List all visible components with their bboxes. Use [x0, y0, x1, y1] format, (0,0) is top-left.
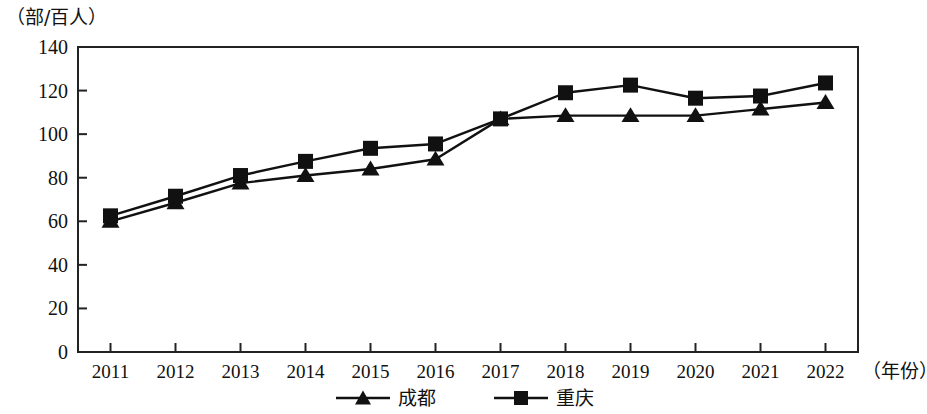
- legend-item-chengdu: 成都: [334, 388, 436, 408]
- y-axis-tick-label: 140: [12, 37, 68, 57]
- x-axis-tick-label: 2013: [206, 362, 276, 381]
- x-axis-tick-label: 2018: [531, 362, 601, 381]
- x-axis-tick-label: 2019: [596, 362, 666, 381]
- x-axis-tick-label: 2012: [141, 362, 211, 381]
- data-point-marker-square: [363, 141, 378, 156]
- data-point-marker-square: [298, 154, 313, 169]
- y-axis-tick-label: 60: [12, 211, 68, 231]
- data-point-marker-triangle: [817, 94, 835, 109]
- legend-label-chengdu: 成都: [398, 389, 436, 408]
- legend-item-chongqing: 重庆: [492, 388, 594, 408]
- x-axis-tick-label: 2015: [336, 362, 406, 381]
- data-point-marker-square: [103, 208, 118, 223]
- y-axis-tick-label: 20: [12, 298, 68, 318]
- y-axis-tick-label: 40: [12, 255, 68, 275]
- data-point-marker-triangle: [427, 151, 445, 166]
- data-point-marker-square: [168, 189, 183, 204]
- square-marker-icon: [492, 388, 550, 408]
- y-axis-tick-label: 100: [12, 124, 68, 144]
- plot-area: [0, 0, 927, 414]
- y-axis-tick-label: 120: [12, 81, 68, 101]
- legend-label-chongqing: 重庆: [556, 389, 594, 408]
- plot-frame: [78, 47, 858, 352]
- x-axis-tick-label: 2017: [466, 362, 536, 381]
- x-axis-tick-label: 2014: [271, 362, 341, 381]
- series-line-2: [111, 83, 826, 216]
- y-axis-tick-label: 0: [12, 342, 68, 362]
- x-axis-tick-label: 2021: [726, 362, 796, 381]
- x-axis-tick-label: 2022: [791, 362, 861, 381]
- triangle-marker-icon: [334, 388, 392, 408]
- data-point-marker-square: [233, 168, 248, 183]
- y-axis-tick-label: 80: [12, 168, 68, 188]
- data-point-marker-square: [818, 75, 833, 90]
- data-point-marker-square: [623, 78, 638, 93]
- x-axis-title: （年份）: [862, 362, 927, 381]
- chart-legend: 成都 重庆: [0, 388, 927, 408]
- line-chart: （部/百人） 020406080100120140 20112012201320…: [0, 0, 927, 414]
- data-point-marker-square: [688, 91, 703, 106]
- x-axis-tick-label: 2011: [76, 362, 146, 381]
- x-axis-tick-label: 2020: [661, 362, 731, 381]
- x-axis-tick-label: 2016: [401, 362, 471, 381]
- series-line-1: [111, 103, 826, 222]
- data-point-marker-square: [558, 85, 573, 100]
- data-point-marker-square: [493, 111, 508, 126]
- data-point-marker-square: [428, 136, 443, 151]
- data-point-marker-square: [753, 89, 768, 104]
